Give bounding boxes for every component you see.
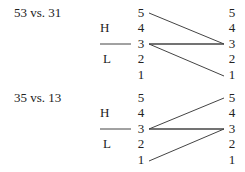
- tone-diagram-53-vs-31: 53 vs. 31 H L 5 4 3 2 1 5 4 3 2 1: [0, 0, 245, 86]
- contour-5-to-3: [149, 13, 224, 44]
- contour-3-to-5: [149, 98, 224, 129]
- contour-lines: [0, 85, 245, 171]
- tone-diagram-35-vs-13: 35 vs. 13 H L 5 4 3 2 1 5 4 3 2 1: [0, 85, 245, 171]
- contour-1-to-3: [149, 129, 224, 161]
- contour-3-to-1: [149, 44, 224, 76]
- contour-lines: [0, 0, 245, 86]
